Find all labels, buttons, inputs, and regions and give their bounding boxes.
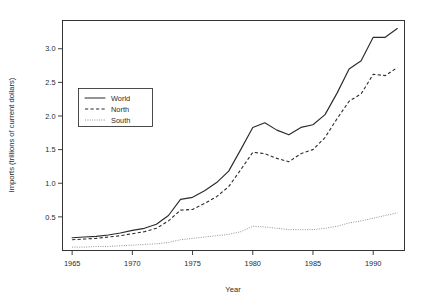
imports-line-chart: 0.51.01.52.02.53.0 196519701975198019851…	[0, 0, 422, 301]
y-tick-label: 0.5	[45, 213, 55, 222]
legend-label-south: South	[111, 116, 130, 125]
legend-label-north: North	[111, 105, 129, 114]
y-axis: 0.51.01.52.02.53.0	[45, 44, 62, 221]
series-line-world	[72, 29, 397, 238]
x-axis: 196519701975198019851990	[64, 251, 382, 268]
plot-frame	[63, 21, 405, 251]
x-axis-title: Year	[225, 285, 241, 294]
y-tick-label: 1.5	[45, 145, 55, 154]
x-tick-label: 1975	[184, 259, 200, 268]
series-line-south	[72, 213, 397, 247]
x-tick-label: 1990	[365, 259, 381, 268]
chart-figure: 0.51.01.52.02.53.0 196519701975198019851…	[0, 0, 422, 301]
x-tick-label: 1980	[245, 259, 261, 268]
chart-legend: WorldNorthSouth	[79, 89, 153, 127]
x-tick-label: 1985	[305, 259, 321, 268]
series-layer	[72, 29, 397, 248]
x-tick-label: 1965	[64, 259, 80, 268]
y-tick-label: 3.0	[45, 44, 55, 53]
y-tick-label: 1.0	[45, 179, 55, 188]
y-tick-label: 2.0	[45, 112, 55, 121]
y-tick-label: 2.5	[45, 78, 55, 87]
y-axis-title: Imports (trillions of current dollars)	[7, 77, 16, 192]
legend-label-world: World	[111, 94, 130, 103]
x-tick-label: 1970	[124, 259, 140, 268]
